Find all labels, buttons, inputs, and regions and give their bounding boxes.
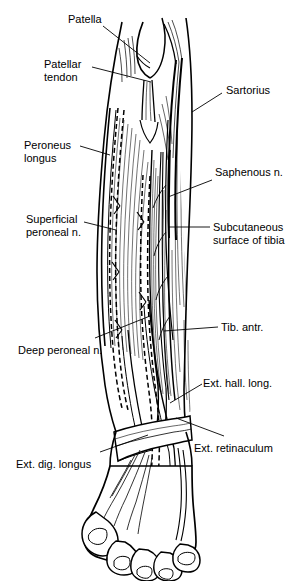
label-sartorius: Sartorius — [226, 84, 270, 97]
label-saphenous-nerve: Saphenous n. — [215, 166, 283, 179]
label-subcutaneous-surface-of-tibia: Subcutaneoussurface of tibia — [213, 221, 285, 246]
label-ext-hall-long: Ext. hall. long. — [203, 377, 272, 390]
leader-patella — [103, 26, 150, 63]
label-ext-retinaculum: Ext. retinaculum — [194, 442, 273, 455]
label-superficial-peroneal-nerve: Superficialperoneal n. — [26, 213, 81, 238]
leader-peroneus-longus — [80, 146, 110, 155]
label-patellar-tendon: Patellartendon — [44, 58, 81, 83]
label-ext-dig-longus: Ext. dig. longus — [16, 458, 91, 471]
label-peroneus-longus: Peroneuslongus — [24, 139, 71, 164]
label-patella: Patella — [68, 13, 102, 26]
label-tib-antr: Tib. antr. — [221, 321, 263, 334]
extensor-retinaculum — [114, 416, 192, 461]
leader-superficial-peroneal — [84, 222, 116, 230]
label-deep-peroneal-nerve: Deep peroneal n. — [18, 344, 102, 357]
knee-region — [119, 18, 182, 143]
leader-sartorius — [192, 93, 222, 112]
